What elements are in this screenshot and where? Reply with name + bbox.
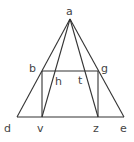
label-e: e [120, 122, 127, 135]
segment-az [70, 19, 98, 117]
segment-av [42, 19, 70, 117]
label-b: b [29, 62, 36, 75]
label-v: v [37, 122, 44, 135]
label-t: t [78, 74, 83, 87]
geometry-diagram: a b g h t d v z e [0, 0, 134, 142]
label-g: g [101, 62, 108, 75]
label-a: a [66, 5, 73, 18]
label-h: h [55, 75, 62, 88]
label-d: d [4, 122, 11, 135]
segment-ad [17, 19, 70, 117]
segment-ae [70, 19, 124, 117]
label-z: z [93, 122, 99, 135]
